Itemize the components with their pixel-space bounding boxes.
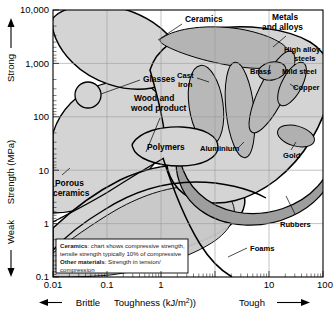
x-axis-title: Toughness (kJ/m2)): [114, 297, 196, 309]
label-ceramics: Ceramics: [185, 14, 223, 24]
label-high-alloy-line2: steels: [294, 54, 316, 63]
label-porous-line1: Porous: [55, 178, 84, 188]
note-line-4: compression: [60, 266, 95, 273]
note-box: Ceramics: chart shows compressive streng…: [56, 239, 188, 273]
label-cast-iron-line2: iron: [178, 80, 193, 89]
label-porous-line2: ceramics: [53, 188, 90, 198]
note-line-1-rest: : chart shows compressive strength,: [87, 242, 185, 249]
label-rubbers: Rubbers: [280, 220, 311, 229]
y-direction-strong: Strong: [5, 54, 16, 82]
y-direction-weak: Weak: [5, 220, 16, 244]
note-line-2: tensile strength typically 10% of compre…: [60, 250, 182, 257]
x-tick-0.1: 0.1: [100, 279, 113, 290]
note-line-3: Other materials: Strength in tension/: [60, 258, 161, 265]
x-tick-100: 100: [317, 279, 333, 290]
label-polymers: Polymers: [147, 142, 185, 152]
label-metals-line1: Metals: [272, 12, 298, 22]
label-high-alloy-line1: High alloy: [284, 45, 321, 54]
y-axis-title: Strength (MPa): [5, 140, 16, 204]
label-gold: Gold: [283, 151, 301, 160]
label-mild-steel: Mild steel: [282, 67, 317, 76]
ashby-chart-figure: Ceramics Glasses Wood and wood product P…: [0, 0, 336, 318]
label-brass: Brass: [250, 67, 271, 76]
x-direction-brittle: Brittle: [76, 297, 100, 308]
label-cast-iron-line1: Cast: [177, 71, 194, 80]
note-line-3-bold: Other materials: [60, 258, 105, 265]
label-foams: Foams: [250, 244, 274, 253]
y-tick-100: 100: [33, 111, 49, 122]
note-line-1: Ceramics: chart shows compressive streng…: [60, 242, 185, 249]
label-copper: Copper: [293, 83, 320, 92]
y-tick-1000: 1,000: [25, 58, 49, 69]
label-glasses: Glasses: [143, 74, 175, 84]
note-line-1-bold: Ceramics: [60, 242, 88, 249]
x-direction-tough: Tough: [239, 297, 265, 308]
region-glasses: [75, 82, 101, 108]
x-axis-title-tail: )): [190, 297, 196, 308]
label-wood-line1: Wood and: [134, 93, 174, 103]
y-tick-10000: 10,000: [20, 4, 49, 15]
label-metals-line2: and alloys: [262, 22, 303, 32]
label-aluminium: Aluminium: [200, 144, 239, 153]
x-tick-1: 1: [158, 279, 163, 290]
label-wood-line2: wood product: [130, 103, 187, 113]
x-tick-0.01: 0.01: [44, 279, 63, 290]
y-tick-1: 1: [44, 218, 49, 229]
x-axis-title-main: Toughness (kJ/m: [114, 297, 186, 308]
note-line-3-rest: : Strength in tension/: [105, 258, 161, 265]
y-tick-10: 10: [38, 165, 49, 176]
x-tick-10: 10: [264, 279, 275, 290]
